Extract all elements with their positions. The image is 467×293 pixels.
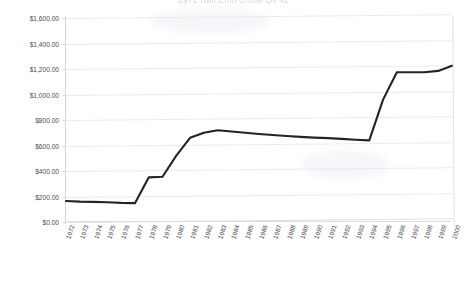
y-axis-tick-label: $600.00: [35, 142, 59, 149]
data-series-crude-oil: [66, 18, 452, 222]
plot-area: [66, 18, 452, 222]
x-axis-tick-label: 1987: [271, 224, 282, 240]
x-axis-tick-label: 1975: [106, 224, 117, 240]
x-axis-tick-label: 1999: [437, 224, 448, 240]
x-axis-labels: 1972197319741975197619771978197919801981…: [66, 224, 452, 288]
x-axis-tick-label: 1990: [313, 224, 324, 240]
chart-title: 1972 Rail Emu Crude Oil 42: [0, 0, 467, 5]
x-axis-tick-label: 1977: [134, 224, 145, 240]
x-axis-tick-label: 1995: [382, 224, 393, 240]
x-axis-tick-label: 1993: [354, 224, 365, 240]
y-axis-tick-label: $1,600.00: [30, 15, 59, 22]
x-axis-tick-label: 1972: [65, 224, 76, 240]
x-axis-tick-label: 1973: [78, 224, 89, 240]
x-axis-tick-label: 1974: [92, 224, 103, 240]
x-axis-tick-label: 1996: [395, 224, 406, 240]
x-axis-tick-label: 1992: [340, 224, 351, 240]
x-axis-tick-label: 1982: [202, 224, 213, 240]
y-axis-tick-label: $800.00: [35, 117, 59, 124]
y-axis-tick-label: $200.00: [35, 193, 59, 200]
x-axis-tick-label: 1984: [230, 224, 241, 240]
y-axis-tick-label: $1,400.00: [30, 40, 59, 47]
x-axis-tick-label: 1979: [161, 224, 172, 240]
x-axis-tick-label: 1988: [285, 224, 296, 240]
x-axis-tick-label: 1989: [299, 224, 310, 240]
x-axis-tick-label: 1994: [368, 224, 379, 240]
x-axis-tick-label: 1985: [244, 224, 255, 240]
y-axis-tick-label: $1,200.00: [30, 66, 59, 73]
chart-container: 1972 Rail Emu Crude Oil 42 $0.00$200.00$…: [0, 0, 467, 293]
x-axis-tick-label: 1981: [189, 224, 200, 240]
x-axis-tick-label: 2000: [451, 224, 462, 240]
x-axis-tick-label: 1978: [147, 224, 158, 240]
x-axis-tick-label: 1980: [175, 224, 186, 240]
y-axis-tick-label: $1,000.00: [30, 91, 59, 98]
x-axis-tick-label: 1991: [327, 224, 338, 240]
x-axis-tick-label: 1986: [258, 224, 269, 240]
y-axis-labels: $0.00$200.00$400.00$600.00$800.00$1,000.…: [0, 18, 62, 222]
y-axis-tick-label: $400.00: [35, 168, 59, 175]
y-axis-tick-label: $0.00: [42, 219, 59, 226]
x-axis-tick-label: 1997: [409, 224, 420, 240]
plot-right-border: [452, 16, 454, 226]
x-axis-tick-label: 1983: [216, 224, 227, 240]
x-axis-tick-label: 1998: [423, 224, 434, 240]
x-axis-tick-label: 1976: [120, 224, 131, 240]
